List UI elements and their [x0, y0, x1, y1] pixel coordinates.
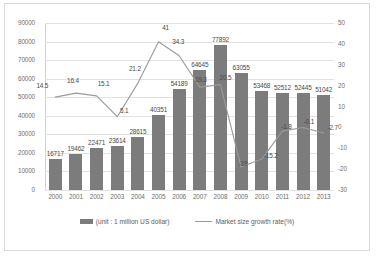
- right-axis-tick-label: -30: [338, 186, 368, 193]
- right-axis-tick-label: 10: [338, 103, 368, 110]
- right-axis-tick-label: 50: [338, 19, 368, 26]
- left-axis-tick-label: 40000: [1, 112, 35, 119]
- bar-value-label: 40351: [145, 106, 173, 113]
- bar-value-label: 63055: [227, 64, 255, 71]
- chart-legend: (unit : 1 million US dollar) Market size…: [5, 218, 369, 225]
- left-axis-tick-label: 60000: [1, 75, 35, 82]
- line-value-label: -2.7: [323, 124, 343, 131]
- chart-card: 0100002000030000400005000060000700008000…: [4, 3, 370, 251]
- gridline: [45, 190, 334, 191]
- left-axis-tick-label: 10000: [1, 167, 35, 174]
- line-value-label: 19.3: [191, 76, 211, 83]
- bar-value-label: 28615: [124, 128, 152, 135]
- right-axis-tick-label: -20: [338, 165, 368, 172]
- line-value-label: -19: [233, 160, 253, 167]
- left-axis-tick-label: 50000: [1, 93, 35, 100]
- line-series: [45, 23, 334, 190]
- plot-area: 1671719462224712361428615403515418964645…: [45, 23, 334, 190]
- legend-label-bar: (unit : 1 million US dollar): [96, 218, 170, 225]
- line-value-label: 41: [156, 24, 176, 31]
- line-value-label: -0.1: [299, 118, 319, 125]
- line-value-label: 20.5: [215, 74, 235, 81]
- line-value-label: 14.5: [32, 82, 52, 89]
- left-axis-tick-label: 90000: [1, 19, 35, 26]
- line-value-label: -1.8: [276, 123, 296, 130]
- line-swatch-icon: [195, 221, 212, 223]
- left-axis-tick-label: 20000: [1, 149, 35, 156]
- left-axis-tick-label: 80000: [1, 38, 35, 45]
- bar-swatch-icon: [80, 219, 93, 224]
- bar-value-label: 64645: [186, 61, 214, 68]
- right-axis-tick-label: 30: [338, 61, 368, 68]
- line-value-label: 15.1: [94, 80, 114, 87]
- legend-item-bar[interactable]: (unit : 1 million US dollar): [80, 218, 170, 225]
- line-value-label: 16.4: [63, 77, 83, 84]
- left-axis-tick-label: 30000: [1, 130, 35, 137]
- bar-value-label: 51042: [310, 86, 338, 93]
- x-axis-tick-label: 2013: [311, 193, 337, 200]
- right-axis-tick-label: 40: [338, 40, 368, 47]
- right-axis-tick-label: 20: [338, 82, 368, 89]
- left-axis-tick-label: 70000: [1, 56, 35, 63]
- line-value-label: 34.3: [168, 38, 188, 45]
- legend-label-line: Market size growth rate(%): [215, 218, 294, 225]
- line-value-label: 21.2: [125, 65, 145, 72]
- line-value-label: -15.2: [261, 152, 281, 159]
- left-axis-tick-label: 0: [1, 186, 35, 193]
- bar-value-label: 23614: [103, 137, 131, 144]
- right-axis-tick-label: -10: [338, 144, 368, 151]
- bar-value-label: 77892: [206, 36, 234, 43]
- line-value-label: 5.1: [114, 107, 134, 114]
- legend-item-line[interactable]: Market size growth rate(%): [195, 218, 294, 225]
- bar-value-label: 54189: [165, 80, 193, 87]
